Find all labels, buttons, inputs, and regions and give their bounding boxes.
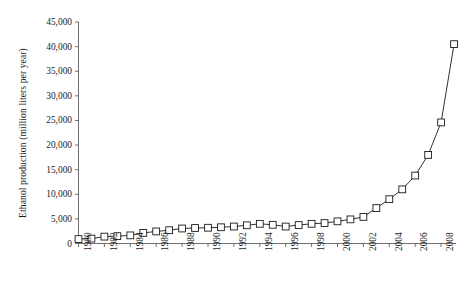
y-tick-label: 40,000 <box>30 42 72 52</box>
data-series-markers <box>75 41 457 243</box>
y-tick-label: 30,000 <box>30 91 72 101</box>
x-tick-label: 1990 <box>212 232 222 251</box>
y-tick-label: 35,000 <box>30 66 72 76</box>
x-tick-marks <box>79 244 442 248</box>
y-tick-label: 25,000 <box>30 115 72 125</box>
x-tick-label: 1998 <box>316 232 326 251</box>
axis-lines <box>79 22 457 244</box>
x-tick-label: 1984 <box>135 232 145 251</box>
x-tick-label: 1980 <box>83 232 93 251</box>
x-tick-label: 1986 <box>160 232 170 251</box>
x-tick-label: 2006 <box>419 232 429 251</box>
y-tick-label: 5,000 <box>30 214 72 224</box>
x-tick-label: 1988 <box>186 232 196 251</box>
x-tick-label: 2002 <box>368 232 378 251</box>
x-tick-label: 2000 <box>342 232 352 251</box>
x-tick-label: 1994 <box>264 232 274 251</box>
y-tick-label: 45,000 <box>30 17 72 27</box>
y-tick-label: 10,000 <box>30 189 72 199</box>
x-tick-label: 1982 <box>109 232 119 251</box>
x-tick-label: 2008 <box>445 232 455 251</box>
ethanol-production-chart: Ethanol production (million liters per y… <box>0 0 464 298</box>
y-tick-label: 0 <box>30 239 72 249</box>
x-tick-label: 1996 <box>290 232 300 251</box>
y-tick-label: 20,000 <box>30 140 72 150</box>
x-tick-label: 2004 <box>394 232 404 251</box>
y-tick-marks <box>75 22 79 244</box>
x-tick-label: 1992 <box>238 232 248 251</box>
data-series-line <box>79 44 455 239</box>
y-tick-label: 15,000 <box>30 165 72 175</box>
